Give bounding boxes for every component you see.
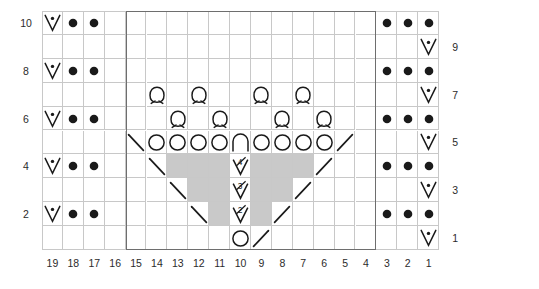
chart-cell-r9-c15[interactable] [126,35,147,59]
chart-cell-r2-c7[interactable] [293,202,314,226]
chart-cell-r7-c3[interactable] [376,83,397,107]
chart-cell-r3-c6[interactable] [314,178,335,202]
chart-cell-r7-c6[interactable] [314,83,335,107]
chart-cell-r2-c12[interactable] [188,202,209,226]
chart-cell-r7-c9[interactable] [251,83,272,107]
chart-cell-r8-c1[interactable] [418,59,439,83]
chart-cell-r9-c8[interactable] [272,35,293,59]
chart-cell-r1-c15[interactable] [126,226,147,250]
chart-cell-r4-c18[interactable] [63,154,84,178]
chart-cell-r10-c7[interactable] [293,11,314,35]
chart-cell-r3-c12[interactable] [188,178,209,202]
chart-cell-r5-c7[interactable] [293,131,314,155]
chart-cell-r1-c1[interactable] [418,226,439,250]
chart-cell-r4-c19[interactable] [42,154,63,178]
chart-cell-r4-c9[interactable] [251,154,272,178]
chart-cell-r9-c12[interactable] [188,35,209,59]
chart-cell-r4-c12[interactable] [188,154,209,178]
chart-cell-r1-c4[interactable] [356,226,377,250]
chart-cell-r6-c7[interactable] [293,107,314,131]
chart-cell-r10-c9[interactable] [251,11,272,35]
chart-cell-r1-c10[interactable] [230,226,251,250]
chart-cell-r7-c15[interactable] [126,83,147,107]
chart-cell-r1-c16[interactable] [105,226,126,250]
chart-cell-r4-c2[interactable] [397,154,418,178]
chart-cell-r5-c14[interactable] [147,131,168,155]
chart-cell-r4-c8[interactable] [272,154,293,178]
chart-cell-r9-c10[interactable] [230,35,251,59]
chart-cell-r6-c16[interactable] [105,107,126,131]
chart-cell-r1-c17[interactable] [84,226,105,250]
chart-cell-r3-c1[interactable] [418,178,439,202]
chart-cell-r6-c10[interactable] [230,107,251,131]
chart-cell-r1-c19[interactable] [42,226,63,250]
chart-cell-r7-c10[interactable] [230,83,251,107]
chart-cell-r1-c14[interactable] [147,226,168,250]
chart-cell-r4-c1[interactable] [418,154,439,178]
chart-cell-r2-c13[interactable] [167,202,188,226]
chart-cell-r6-c18[interactable] [63,107,84,131]
chart-cell-r6-c9[interactable] [251,107,272,131]
chart-cell-r6-c6[interactable] [314,107,335,131]
chart-cell-r4-c11[interactable] [209,154,230,178]
chart-cell-r9-c5[interactable] [335,35,356,59]
chart-cell-r9-c3[interactable] [376,35,397,59]
chart-cell-r5-c15[interactable] [126,131,147,155]
chart-cell-r8-c8[interactable] [272,59,293,83]
chart-cell-r3-c4[interactable] [356,178,377,202]
chart-cell-r4-c10[interactable] [230,154,251,178]
chart-cell-r10-c16[interactable] [105,11,126,35]
chart-cell-r3-c14[interactable] [147,178,168,202]
chart-cell-r8-c2[interactable] [397,59,418,83]
chart-cell-r7-c2[interactable] [397,83,418,107]
chart-cell-r4-c16[interactable] [105,154,126,178]
chart-cell-r2-c18[interactable] [63,202,84,226]
chart-cell-r5-c17[interactable] [84,131,105,155]
chart-cell-r3-c2[interactable] [397,178,418,202]
chart-cell-r6-c17[interactable] [84,107,105,131]
chart-cell-r10-c18[interactable] [63,11,84,35]
chart-cell-r2-c4[interactable] [356,202,377,226]
chart-cell-r5-c6[interactable] [314,131,335,155]
chart-cell-r5-c1[interactable] [418,131,439,155]
chart-cell-r1-c8[interactable] [272,226,293,250]
chart-cell-r9-c7[interactable] [293,35,314,59]
chart-cell-r6-c14[interactable] [147,107,168,131]
chart-cell-r3-c18[interactable] [63,178,84,202]
chart-cell-r6-c12[interactable] [188,107,209,131]
chart-cell-r4-c6[interactable] [314,154,335,178]
chart-cell-r8-c16[interactable] [105,59,126,83]
chart-cell-r4-c14[interactable] [147,154,168,178]
chart-cell-r8-c12[interactable] [188,59,209,83]
chart-cell-r2-c6[interactable] [314,202,335,226]
chart-cell-r4-c7[interactable] [293,154,314,178]
chart-cell-r5-c16[interactable] [105,131,126,155]
chart-cell-r7-c14[interactable] [147,83,168,107]
chart-cell-r6-c11[interactable] [209,107,230,131]
chart-cell-r3-c16[interactable] [105,178,126,202]
chart-cell-r5-c18[interactable] [63,131,84,155]
chart-cell-r9-c2[interactable] [397,35,418,59]
chart-cell-r4-c5[interactable] [335,154,356,178]
chart-cell-r9-c6[interactable] [314,35,335,59]
chart-cell-r10-c14[interactable] [147,11,168,35]
chart-cell-r7-c13[interactable] [167,83,188,107]
chart-cell-r6-c13[interactable] [167,107,188,131]
chart-cell-r10-c19[interactable] [42,11,63,35]
chart-cell-r8-c18[interactable] [63,59,84,83]
chart-cell-r6-c2[interactable] [397,107,418,131]
chart-cell-r5-c4[interactable] [356,131,377,155]
chart-cell-r1-c12[interactable] [188,226,209,250]
chart-cell-r1-c9[interactable] [251,226,272,250]
chart-cell-r7-c17[interactable] [84,83,105,107]
chart-cell-r2-c17[interactable] [84,202,105,226]
chart-cell-r6-c1[interactable] [418,107,439,131]
chart-cell-r2-c5[interactable] [335,202,356,226]
chart-cell-r10-c8[interactable] [272,11,293,35]
chart-cell-r2-c16[interactable] [105,202,126,226]
chart-cell-r3-c9[interactable] [251,178,272,202]
chart-cell-r3-c13[interactable] [167,178,188,202]
chart-cell-r7-c5[interactable] [335,83,356,107]
chart-cell-r2-c11[interactable] [209,202,230,226]
chart-cell-r10-c6[interactable] [314,11,335,35]
